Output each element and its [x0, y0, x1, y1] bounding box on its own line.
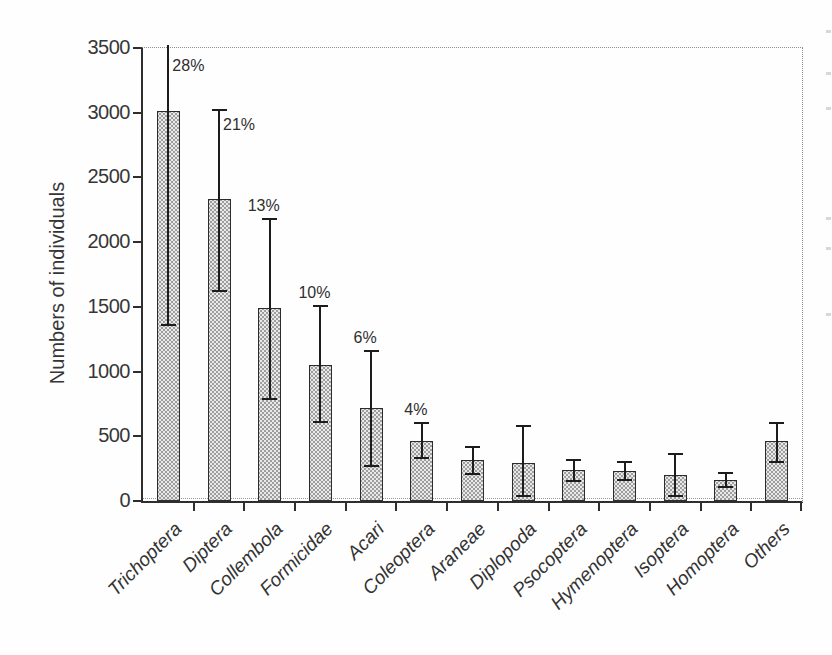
y-tick-label: 3500: [66, 36, 130, 59]
error-cap-top: [414, 422, 429, 424]
error-bar: [421, 423, 423, 457]
error-bar: [725, 473, 727, 487]
y-tick-label: 1500: [66, 295, 130, 318]
error-bar: [370, 351, 372, 466]
percent-label: 21%: [223, 116, 255, 134]
y-axis-tick: [133, 112, 141, 114]
x-axis-tick: [243, 503, 245, 511]
category-label-acari: Acari: [343, 518, 389, 564]
category-label-trichoptera: Trichoptera: [103, 518, 186, 601]
x-axis-tick: [294, 503, 296, 511]
error-cap-top: [364, 350, 379, 352]
error-cap-bottom: [465, 473, 480, 475]
error-bar: [573, 460, 575, 481]
error-cap-top: [566, 459, 581, 461]
plot-area: 28%21%13%10%6%4%: [141, 47, 803, 503]
y-tick-label: 2000: [66, 230, 130, 253]
percent-label: 28%: [172, 57, 204, 75]
error-cap-top: [465, 446, 480, 448]
error-bar: [674, 454, 676, 495]
category-label-others: Others: [738, 518, 794, 574]
bar-chart-figure: Numbers of individuals 28%21%13%10%6%4% …: [0, 0, 832, 655]
y-axis-title: Numbers of individuals: [46, 182, 69, 384]
error-cap-top: [718, 472, 733, 474]
y-axis-tick: [133, 241, 141, 243]
x-axis-tick: [598, 503, 600, 511]
x-axis-tick: [446, 503, 448, 511]
scan-artifact: [826, 107, 831, 110]
error-cap-bottom: [718, 486, 733, 488]
error-cap-top: [262, 218, 277, 220]
error-cap-bottom: [414, 457, 429, 459]
error-cap-top: [769, 422, 784, 424]
error-cap-bottom: [161, 324, 176, 326]
x-axis-tick: [548, 503, 550, 511]
error-cap-bottom: [313, 421, 328, 423]
x-axis-tick: [649, 503, 651, 511]
x-axis-tick: [395, 503, 397, 511]
x-axis-tick: [497, 503, 499, 511]
error-bar: [522, 426, 524, 496]
y-axis-tick: [133, 500, 141, 502]
error-cap-top: [212, 109, 227, 111]
error-cap-bottom: [364, 465, 379, 467]
error-bar: [167, 45, 169, 325]
scan-artifact: [826, 313, 831, 316]
percent-label: 6%: [335, 329, 395, 347]
y-axis-tick: [133, 47, 141, 49]
scan-artifact: [826, 217, 831, 220]
error-cap-bottom: [262, 398, 277, 400]
error-cap-bottom: [566, 480, 581, 482]
error-cap-top: [668, 453, 683, 455]
error-cap-bottom: [617, 479, 632, 481]
error-cap-bottom: [769, 461, 784, 463]
y-axis-tick: [133, 306, 141, 308]
error-bar: [319, 306, 321, 422]
x-axis-tick: [193, 503, 195, 511]
error-cap-bottom: [516, 495, 531, 497]
error-bar: [269, 219, 271, 399]
error-cap-top: [313, 305, 328, 307]
error-bar: [218, 110, 220, 291]
scan-artifact: [826, 72, 831, 75]
error-cap-top: [516, 425, 531, 427]
percent-label: 13%: [234, 197, 294, 215]
error-bar: [472, 447, 474, 474]
x-axis-tick: [800, 503, 802, 511]
y-tick-label: 1000: [66, 360, 130, 383]
error-bar: [776, 423, 778, 462]
y-tick-label: 0: [66, 489, 130, 512]
x-axis-tick: [750, 503, 752, 511]
percent-label: 10%: [284, 284, 344, 302]
error-cap-bottom: [668, 495, 683, 497]
y-axis-tick: [133, 371, 141, 373]
y-axis-tick: [133, 435, 141, 437]
y-tick-label: 500: [66, 424, 130, 447]
error-bar: [624, 462, 626, 480]
y-tick-label: 2500: [66, 165, 130, 188]
percent-label: 4%: [386, 401, 446, 419]
scan-artifact: [826, 30, 831, 33]
x-axis-tick: [345, 503, 347, 511]
x-axis-tick: [700, 503, 702, 511]
y-tick-label: 3000: [66, 101, 130, 124]
error-cap-bottom: [212, 290, 227, 292]
y-axis-tick: [133, 176, 141, 178]
scan-artifact: [826, 247, 831, 250]
error-cap-top: [617, 461, 632, 463]
